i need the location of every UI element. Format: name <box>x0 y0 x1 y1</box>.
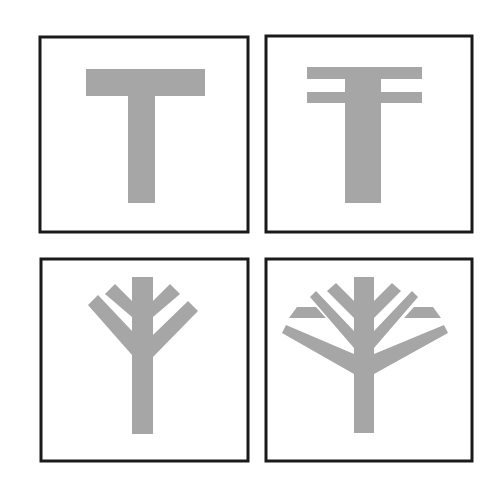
glyph-segment <box>132 277 153 434</box>
figure-canvas <box>0 0 499 491</box>
panel-t-shape <box>40 37 248 232</box>
panel-large-tree <box>266 259 472 461</box>
panel-double-crossbar <box>266 36 472 232</box>
glyph-segment <box>345 67 381 203</box>
glyph-segment <box>354 277 374 433</box>
panel-small-tree <box>41 259 248 461</box>
